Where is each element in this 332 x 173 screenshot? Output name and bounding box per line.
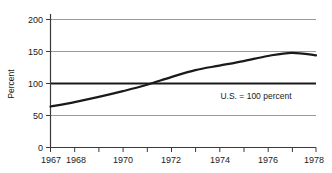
x-tick-label-1974: 1974 [210,155,230,165]
reference-annotation: U.S. = 100 percent [220,91,292,101]
line-chart: 200 150 100 50 0 1967 1968 1970 1972 197… [0,0,332,173]
x-tick-label-1970: 1970 [113,155,133,165]
y-tick-label-0: 0 [38,143,43,153]
x-tick-label-1967: 1967 [41,155,61,165]
x-tick-label-1978: 1978 [304,155,324,165]
y-tick-label-50: 50 [33,111,43,121]
x-tick-label-1976: 1976 [258,155,278,165]
y-axis-title: Percent [6,69,16,99]
y-tick-label-200: 200 [28,15,43,25]
x-tick-label-1972: 1972 [161,155,181,165]
y-tick-label-150: 150 [28,47,43,57]
chart-container: 200 150 100 50 0 1967 1968 1970 1972 197… [0,0,332,173]
x-tick-label-1968: 1968 [66,155,86,165]
y-tick-label-100: 100 [28,79,43,89]
